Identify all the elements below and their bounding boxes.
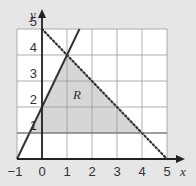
x-tick-label: 2 [88, 164, 95, 179]
y-tick-label: 2 [30, 92, 37, 107]
y-tick-label: 1 [30, 118, 37, 133]
x-tick-label: 1 [63, 164, 70, 179]
x-axis-label: x [179, 164, 186, 179]
y-axis-label: y [28, 7, 36, 22]
x-axis-arrow-icon [176, 155, 185, 163]
region-label: R [72, 87, 81, 102]
x-tick-label: 3 [113, 164, 120, 179]
y-tick-label: 4 [30, 40, 37, 55]
x-tick-label: −1 [8, 164, 23, 179]
y-tick-label: 3 [30, 66, 37, 81]
x-tick-label: 4 [138, 164, 145, 179]
x-tick-label: 5 [163, 164, 170, 179]
chart: −101234512345xyR [0, 0, 196, 186]
y-axis-arrow-icon [38, 9, 46, 18]
x-tick-label: 0 [38, 164, 45, 179]
